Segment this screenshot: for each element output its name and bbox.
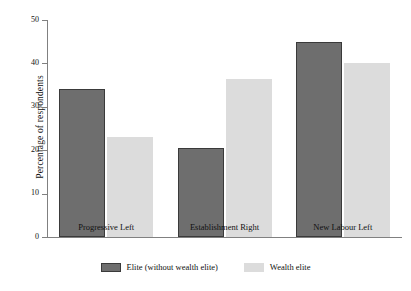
y-axis-tick-label: 10 [31, 187, 39, 199]
legend-item[interactable]: Wealth elite [244, 262, 311, 272]
x-axis-category-label: Progressive Left [47, 222, 165, 232]
y-axis-tick-label: 50 [31, 14, 39, 26]
x-axis-category-label: New Labour Left [284, 222, 402, 232]
bar [344, 63, 390, 237]
y-axis-tick-label: 20 [31, 144, 39, 156]
y-axis-tick: 30 [42, 107, 47, 108]
y-axis-tick-label: 30 [31, 100, 39, 112]
y-axis-tick-label: 0 [35, 231, 39, 243]
legend-swatch-icon [101, 263, 121, 272]
legend-swatch-icon [244, 263, 264, 272]
x-axis-category-label: Establishment Right [165, 222, 283, 232]
plot-area: 01020304050 [47, 20, 402, 237]
y-axis-tick: 50 [42, 20, 47, 21]
chart-legend: Elite (without wealth elite)Wealth elite [0, 262, 411, 272]
y-axis-tick: 20 [42, 150, 47, 151]
bar [296, 42, 342, 237]
legend-label: Wealth elite [270, 262, 311, 272]
x-axis-line [47, 237, 402, 238]
legend-item[interactable]: Elite (without wealth elite) [101, 262, 218, 272]
y-axis-tick-label: 40 [31, 57, 39, 69]
y-axis-tick: 10 [42, 194, 47, 195]
y-axis-tick: 40 [42, 63, 47, 64]
legend-label: Elite (without wealth elite) [127, 262, 218, 272]
bar [226, 79, 272, 237]
y-axis-line [47, 20, 48, 237]
bar-chart-figure: Percentage of respondents 01020304050 Pr… [0, 0, 411, 291]
bar [59, 89, 105, 237]
y-axis-tick: 0 [42, 237, 47, 238]
